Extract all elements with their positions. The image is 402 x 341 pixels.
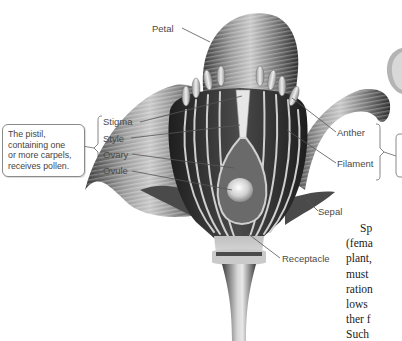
label-filament: Filament: [337, 159, 373, 169]
label-receptacle: Receptacle: [282, 254, 330, 264]
flower-diagram: Petal Stigma Style Ovary Ovule Anther Fi…: [0, 0, 402, 341]
body-text-line: must: [346, 267, 373, 282]
body-text-line: Such: [346, 327, 373, 341]
callout-line: receives pollen.: [8, 161, 79, 172]
label-petal: Petal: [152, 24, 174, 34]
body-text-line: (fema: [346, 236, 373, 251]
callout-line: The pistil,: [8, 129, 79, 140]
label-sepal: Sepal: [318, 207, 342, 217]
body-text-fragment: Sp (fema plant, must ration lows ther f …: [346, 221, 373, 341]
label-stigma: Stigma: [103, 117, 133, 127]
body-text-line: ther f: [346, 312, 373, 327]
label-ovule: Ovule: [103, 166, 128, 176]
callout-line: or more carpels,: [8, 150, 79, 161]
body-text-line: plant,: [346, 251, 373, 266]
callout-line: containing one: [8, 140, 79, 151]
pistil-callout: The pistil, containing one or more carpe…: [2, 124, 85, 177]
body-text-line: ration: [346, 282, 373, 297]
label-ovary: Ovary: [103, 150, 128, 160]
body-text-line: Sp: [346, 221, 373, 236]
label-style: Style: [103, 134, 124, 144]
label-anther: Anther: [337, 128, 365, 138]
body-text-line: lows: [346, 297, 373, 312]
